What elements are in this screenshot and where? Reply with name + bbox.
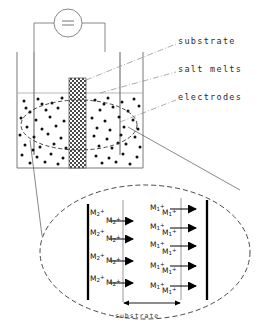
power-circuit [34,9,105,52]
power-source-circle [54,9,82,37]
ion-label-m1: M1+ [162,228,177,237]
ion-label-m1: M1+ [162,286,177,295]
cone-line-left [30,140,42,236]
leader-substrate [86,44,176,80]
ion-label-m1: M1+ [162,247,177,256]
power-source-symbol [62,21,74,25]
ion-label-m1: M1+ [162,208,177,217]
cone-line-right [128,127,240,190]
magnification-cone [30,127,240,236]
figure-canvas [0,0,275,333]
label-substrate-dimension: substrate [115,312,159,320]
ion-label-m2: M2+ [106,234,121,243]
label-electrodes: electrodes [178,92,242,102]
leader-salt-melts [100,72,176,93]
left-ion-flux-arrows [110,221,133,283]
label-substrate: substrate [178,36,236,46]
ion-label-m2: M2+ [106,216,121,225]
ion-label-m2: M2+ [90,252,105,261]
ion-label-m2: M2+ [90,274,105,283]
ion-label-m2: M2+ [106,256,121,265]
ion-label-m2: M2+ [90,208,105,217]
ion-label-m1: M1+ [162,266,177,275]
magnified-detail-ellipse [40,185,250,319]
hatched-substrate-block [69,78,86,168]
ion-label-m2: M2+ [90,228,105,237]
ion-label-m2: M2+ [106,278,121,287]
electrolysis-cell-figure: substrate salt melts electrodes substrat… [0,0,275,333]
label-salt-melts: salt melts [178,64,242,74]
